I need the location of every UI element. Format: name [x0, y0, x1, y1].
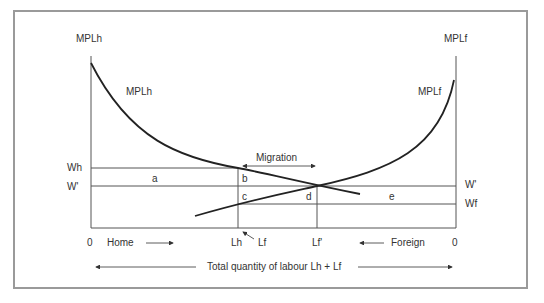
- origin-foreign-label: 0: [452, 237, 458, 248]
- mplh-curve-label: MPLh: [126, 86, 152, 97]
- total-quantity-label: Total quantity of labour Lh + Lf: [207, 261, 341, 272]
- area-a: a: [152, 173, 158, 184]
- right-axis-title: MPLf: [444, 33, 468, 44]
- migration-label: Migration: [256, 152, 297, 163]
- wf-label: Wf: [465, 198, 477, 209]
- lf-prime-label: Lf': [312, 237, 322, 248]
- lf-label: Lf: [258, 237, 267, 248]
- labour-migration-diagram: Migration MPLh MPLf MPLh MPLf Wh W' W' W…: [0, 0, 544, 303]
- mplf-curve-label: MPLf: [418, 86, 442, 97]
- origin-home-label: 0: [87, 237, 93, 248]
- wh-label: Wh: [67, 162, 82, 173]
- mplh-curve: [91, 63, 360, 194]
- w-prime-left-label: W': [67, 181, 78, 192]
- mplf-curve: [195, 80, 454, 216]
- area-c: c: [242, 191, 247, 202]
- area-b: b: [242, 173, 248, 184]
- w-prime-right-label: W': [465, 179, 476, 190]
- left-axis-title: MPLh: [76, 33, 102, 44]
- foreign-label: Foreign: [391, 237, 425, 248]
- lh-label: Lh: [231, 237, 242, 248]
- area-e: e: [389, 191, 395, 202]
- home-label: Home: [107, 237, 134, 248]
- area-d: d: [306, 191, 312, 202]
- lh-pointer-arrow: [243, 232, 254, 239]
